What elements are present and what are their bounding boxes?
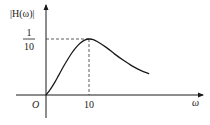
x-tick-label-10: 10 (84, 99, 94, 110)
series-line-magnitude (46, 39, 149, 95)
y-tick-label-denominator: 10 (24, 41, 34, 52)
y-axis-label: |H(ω)| (10, 8, 34, 20)
origin-label: O (32, 99, 39, 110)
x-axis-label: ω (192, 97, 199, 108)
chart: |H(ω)| ω O 10 1 10 (0, 0, 210, 125)
y-tick-label-numerator: 1 (27, 27, 32, 38)
